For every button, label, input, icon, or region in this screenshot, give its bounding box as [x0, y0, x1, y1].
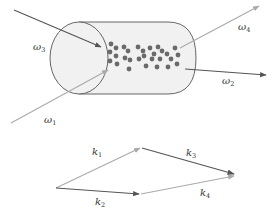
label-omega2: ω2 — [222, 75, 234, 88]
label-k4: k4 — [200, 187, 210, 200]
label-omega4: ω4 — [238, 21, 250, 34]
vector-k2 — [56, 188, 139, 194]
label-omega1: ω1 — [44, 114, 56, 127]
label-omega3: ω3 — [33, 41, 45, 54]
label-k1: k1 — [92, 146, 102, 159]
label-k2: k2 — [95, 196, 105, 209]
four-wave-mixing-diagram: ω3 ω1 ω4 ω2 k1 k2 k3 k4 — [0, 0, 274, 215]
vector-k4 — [141, 176, 234, 194]
label-k3: k3 — [186, 147, 196, 160]
